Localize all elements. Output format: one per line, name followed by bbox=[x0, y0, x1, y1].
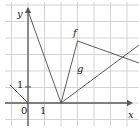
x-axis-arrowhead bbox=[127, 100, 133, 106]
origin-label: 0 bbox=[21, 106, 27, 116]
curve-label-f: f bbox=[73, 28, 77, 38]
y-axis-label: y bbox=[17, 9, 23, 19]
graph-figure: y x 0 1 1 f g bbox=[0, 0, 139, 132]
curve-paths bbox=[10, 11, 139, 103]
grid-vertical-lines bbox=[12, 2, 128, 126]
y-unit-tick-label: 1 bbox=[17, 80, 23, 90]
x-unit-tick-label: 1 bbox=[40, 106, 46, 116]
curve-label-g: g bbox=[77, 64, 83, 74]
x-axis-label: x bbox=[128, 110, 134, 120]
